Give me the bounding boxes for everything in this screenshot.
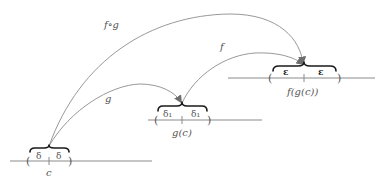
point-c-label: c (46, 167, 52, 178)
composite-map-label: f∘g (103, 19, 119, 30)
number-line-c: ( ) δ δ c (10, 145, 152, 178)
number-line-g-of-c: ( ) δ₁ δ₁ g(c) (148, 102, 262, 138)
delta1-left-label: δ₁ (163, 109, 172, 119)
point-f-of-g-of-c-label: f(g(c)) (286, 86, 318, 97)
left-paren: ( (268, 72, 272, 85)
g-map-label: g (105, 93, 111, 104)
epsilon-right-label: ε (318, 67, 323, 77)
right-paren: ) (337, 72, 341, 85)
epsilon-left-label: ε (283, 67, 288, 77)
left-paren: ( (154, 114, 158, 127)
g-map-arc (49, 84, 181, 146)
delta-left-label: δ (36, 151, 41, 161)
continuity-composition-diagram: f∘g g f ( ) δ δ c ( ) δ₁ δ₁ g(c) ( ) ε ε (0, 0, 385, 182)
number-line-f-of-g-of-c: ( ) ε ε f(g(c)) (228, 62, 375, 97)
point-g-of-c-label: g(c) (172, 127, 192, 138)
right-paren: ) (68, 155, 72, 168)
right-paren: ) (207, 114, 211, 127)
f-map-label: f (219, 41, 226, 52)
delta-right-label: δ (56, 151, 61, 161)
left-paren: ( (26, 155, 30, 168)
delta1-right-label: δ₁ (191, 109, 200, 119)
